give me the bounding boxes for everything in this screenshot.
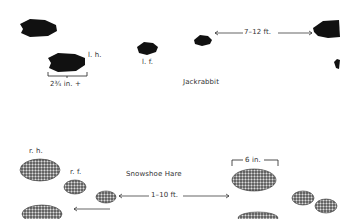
hare-next-front-print-1 bbox=[292, 191, 314, 205]
jackrabbit-width-label: 2¾ in. + bbox=[50, 80, 81, 88]
jackrabbit-left-hind-label: l. h. bbox=[88, 51, 102, 59]
hare-stride-label: 1–10 ft. bbox=[151, 191, 178, 199]
hare-left-front-print bbox=[96, 191, 116, 203]
hare-left-hind-print bbox=[22, 205, 62, 219]
jackrabbit-width-bracket bbox=[48, 72, 87, 78]
jackrabbit-right-hind-print bbox=[20, 19, 57, 37]
hare-next-right-hind-print bbox=[232, 169, 276, 191]
jackrabbit-tracks bbox=[20, 19, 340, 72]
track-diagram bbox=[0, 0, 361, 219]
jackrabbit-right-front-print bbox=[194, 35, 212, 46]
jackrabbit-left-front-label: l. f. bbox=[142, 58, 153, 66]
jackrabbit-stride-label: 7–12 ft. bbox=[244, 28, 271, 36]
snowshoe-hare-tracks bbox=[20, 159, 337, 219]
hare-right-hind-label: r. h. bbox=[29, 147, 43, 155]
hare-next-left-hind-print bbox=[238, 212, 278, 219]
hare-right-front-print bbox=[64, 180, 86, 194]
hare-right-hind-print bbox=[20, 159, 60, 181]
hare-next-front-print-2 bbox=[315, 199, 337, 213]
jackrabbit-next-hind-print bbox=[313, 20, 340, 38]
hare-width-label: 6 in. bbox=[245, 156, 261, 164]
jackrabbit-left-hind-print bbox=[48, 53, 85, 72]
jackrabbit-next-front-print bbox=[334, 59, 340, 69]
jackrabbit-left-front-print bbox=[137, 42, 158, 55]
hare-right-front-label: r. f. bbox=[70, 168, 81, 176]
hare-title: Snowshoe Hare bbox=[126, 170, 182, 178]
hare-direction-arrow bbox=[74, 207, 110, 211]
jackrabbit-title: Jackrabbit bbox=[183, 78, 219, 86]
